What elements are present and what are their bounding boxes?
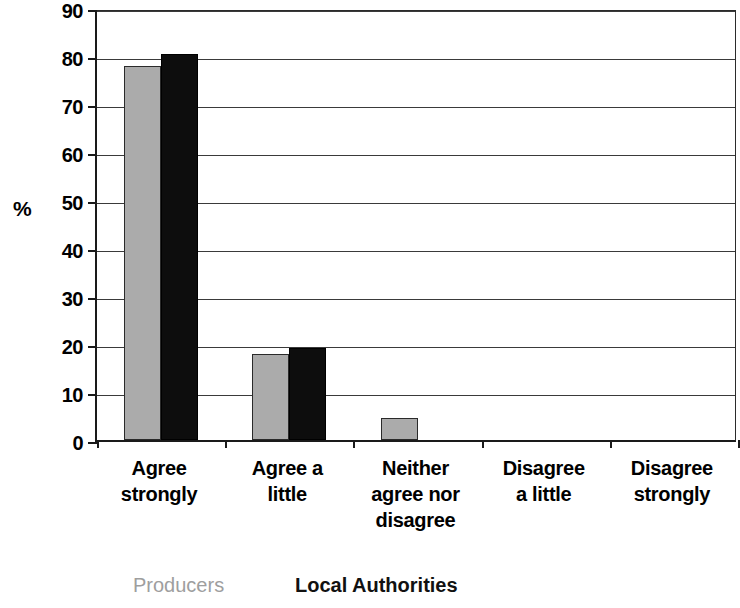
legend-item-producers: Producers bbox=[133, 572, 224, 598]
y-axis-title: % bbox=[2, 197, 42, 221]
x-axis-tick-mark bbox=[225, 440, 227, 448]
y-axis-tick-label: 60 bbox=[62, 144, 83, 167]
gridline bbox=[97, 11, 735, 12]
y-axis-tick-mark bbox=[88, 154, 97, 156]
x-axis-label-line: Disagree bbox=[608, 455, 736, 481]
y-axis-tick-label: 10 bbox=[62, 384, 83, 407]
x-axis-label-line: Disagree bbox=[480, 455, 608, 481]
x-axis-label: Agree alittle bbox=[223, 455, 351, 507]
y-axis-tick-mark bbox=[88, 442, 97, 444]
y-axis-tick-label: 40 bbox=[62, 240, 83, 263]
y-axis-tick-label: 30 bbox=[62, 288, 83, 311]
y-axis-tick-label: 70 bbox=[62, 96, 83, 119]
x-axis-label-line: disagree bbox=[351, 507, 479, 533]
x-axis-label-line: agree nor bbox=[351, 481, 479, 507]
x-axis-category-labels: AgreestronglyAgree alittleNeitheragree n… bbox=[95, 455, 736, 560]
bar-chart: % 9080706050403020100 AgreestronglyAgree… bbox=[0, 0, 740, 608]
y-axis-tick-mark bbox=[88, 58, 97, 60]
y-axis-tick-label: 20 bbox=[62, 336, 83, 359]
bar-producers bbox=[124, 66, 161, 440]
bar-local-authorities bbox=[161, 54, 198, 440]
y-axis-tick-mark bbox=[88, 10, 97, 12]
x-axis-label-line: little bbox=[223, 481, 351, 507]
plot-area: 9080706050403020100 bbox=[95, 10, 736, 442]
chart-legend: Producers Local Authorities bbox=[95, 572, 595, 602]
x-axis-label-line: strongly bbox=[95, 481, 223, 507]
x-axis-label-line: Neither bbox=[351, 455, 479, 481]
y-axis-tick-label: 0 bbox=[72, 432, 83, 455]
x-axis-label: Disagreea little bbox=[480, 455, 608, 507]
x-axis-label-line: Agree a bbox=[223, 455, 351, 481]
y-axis-tick-mark bbox=[88, 202, 97, 204]
y-axis-tick-label: 50 bbox=[62, 192, 83, 215]
y-axis-tick-mark bbox=[88, 106, 97, 108]
y-axis-tick-label: 90 bbox=[62, 0, 83, 23]
x-axis-tick-mark bbox=[482, 440, 484, 448]
bar-local-authorities bbox=[289, 348, 326, 440]
bar-producers bbox=[381, 418, 418, 440]
y-axis-tick-mark bbox=[88, 250, 97, 252]
bar-producers bbox=[252, 354, 289, 440]
x-axis-tick-mark bbox=[610, 440, 612, 448]
x-axis-tick-mark bbox=[97, 440, 99, 448]
x-axis-label: Agreestrongly bbox=[95, 455, 223, 507]
x-axis-label: Neitheragree nordisagree bbox=[351, 455, 479, 533]
x-axis-label-line: Agree bbox=[95, 455, 223, 481]
x-axis-label-line: strongly bbox=[608, 481, 736, 507]
y-axis-tick-mark bbox=[88, 298, 97, 300]
x-axis-tick-mark bbox=[353, 440, 355, 448]
y-axis-tick-mark bbox=[88, 394, 97, 396]
legend-item-local-authorities: Local Authorities bbox=[295, 572, 458, 598]
y-axis-tick-mark bbox=[88, 346, 97, 348]
y-axis-tick-label: 80 bbox=[62, 48, 83, 71]
x-axis-label: Disagreestrongly bbox=[608, 455, 736, 507]
x-axis-label-line: a little bbox=[480, 481, 608, 507]
